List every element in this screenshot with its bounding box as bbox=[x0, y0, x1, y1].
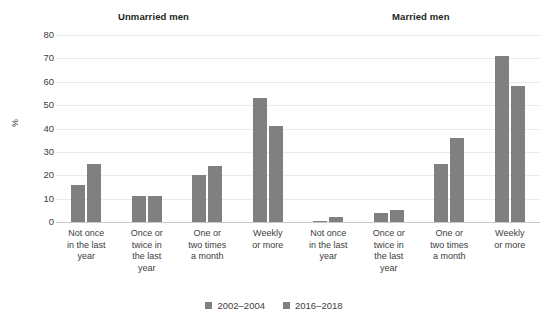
legend-label: 2002–2004 bbox=[217, 300, 265, 311]
legend-swatch-icon bbox=[283, 302, 290, 309]
x-axis-line bbox=[56, 222, 540, 223]
category-label: Not once in the last year bbox=[56, 228, 117, 263]
legend-label: 2016–2018 bbox=[295, 300, 343, 311]
panel-title-married: Married men bbox=[392, 11, 450, 22]
y-tick-label: 20 bbox=[24, 170, 54, 180]
bar bbox=[450, 138, 464, 222]
y-tick-label: 80 bbox=[24, 30, 54, 40]
plot-area bbox=[56, 35, 540, 222]
y-tick-label: 10 bbox=[24, 194, 54, 204]
bar bbox=[87, 164, 101, 222]
bar bbox=[208, 166, 222, 222]
panel-title-unmarried: Unmarried men bbox=[118, 11, 189, 22]
category-label: Weekly or more bbox=[238, 228, 299, 251]
bar-chart: Unmarried men Married men % 010203040506… bbox=[0, 0, 548, 329]
y-tick-label: 30 bbox=[24, 147, 54, 157]
category-label: One or two times a month bbox=[177, 228, 238, 263]
bar bbox=[192, 175, 206, 222]
bar bbox=[511, 86, 525, 222]
bar bbox=[313, 221, 327, 222]
bar bbox=[374, 213, 388, 222]
y-axis-label: % bbox=[10, 112, 20, 134]
y-tick-label: 40 bbox=[24, 124, 54, 134]
category-label: One or two times a month bbox=[419, 228, 480, 263]
category-label: Not once in the last year bbox=[298, 228, 359, 263]
bar bbox=[132, 196, 146, 222]
bar bbox=[390, 210, 404, 222]
legend-swatch-icon bbox=[205, 302, 212, 309]
bar bbox=[329, 217, 343, 222]
bar bbox=[495, 56, 509, 222]
category-label: Weekly or more bbox=[480, 228, 541, 251]
bar bbox=[434, 164, 448, 222]
chart-legend: 2002–2004 2016–2018 bbox=[0, 300, 548, 311]
y-tick-label: 0 bbox=[24, 217, 54, 227]
bar bbox=[269, 126, 283, 222]
y-tick-label: 50 bbox=[24, 100, 54, 110]
category-label: Once or twice in the last year bbox=[117, 228, 178, 274]
y-tick-label: 70 bbox=[24, 53, 54, 63]
bar bbox=[71, 185, 85, 222]
legend-item-2002-2004: 2002–2004 bbox=[205, 300, 265, 311]
bar bbox=[253, 98, 267, 222]
bar bbox=[148, 196, 162, 222]
legend-item-2016-2018: 2016–2018 bbox=[283, 300, 343, 311]
y-tick-label: 60 bbox=[24, 77, 54, 87]
category-label: Once or twice in the last year bbox=[359, 228, 420, 274]
